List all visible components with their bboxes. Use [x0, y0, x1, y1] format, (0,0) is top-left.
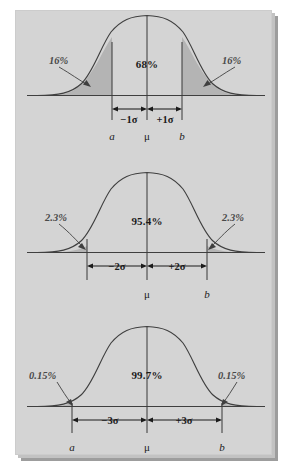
normal-distribution-figure: 68% 16% 16% −1σ +1σ a μ b	[15, 10, 272, 455]
panel-2-left-leader	[59, 224, 86, 250]
panel-3-axis-label-mu: μ	[144, 441, 150, 453]
panel-1-axis-label-b: b	[179, 130, 185, 142]
panel-3-center-percent: 99.7%	[131, 369, 162, 381]
panel-2-axis-label-mu: μ	[144, 288, 150, 300]
panel-2-right-tail-percent: 2.3%	[221, 212, 244, 223]
panel-3-right-tail-percent: 0.15%	[218, 370, 245, 381]
panel-1-sigma: 68% 16% 16% −1σ +1σ a μ b	[27, 16, 265, 143]
panel-2-span-left-label: −2σ	[109, 261, 126, 272]
panel-2-axis-label-b: b	[204, 288, 210, 300]
panel-2-right-leader	[208, 224, 235, 250]
panel-1-left-tail-percent: 16%	[49, 55, 69, 66]
panel-1-span-right-label: +1σ	[157, 114, 174, 125]
figure-plate: 68% 16% 16% −1σ +1σ a μ b	[15, 10, 272, 455]
panel-1-span-left-label: −1σ	[121, 114, 138, 125]
panel-3-axis-label-a: a	[69, 441, 75, 453]
panel-2-center-percent: 95.4%	[131, 215, 162, 227]
panel-3-axis-label-b: b	[219, 441, 225, 453]
panel-3-sigma: 99.7% 0.15% 0.15% −3σ +3σ a μ b	[27, 327, 265, 454]
panel-3-left-leader	[57, 382, 73, 406]
panel-1-axis-label-a: a	[109, 130, 115, 142]
panel-3-left-tail-percent: 0.15%	[29, 370, 56, 381]
figure-root: 68% 16% 16% −1σ +1σ a μ b	[0, 0, 297, 474]
panel-2-sigma: 95.4% 2.3% 2.3% −2σ +2σ μ b	[27, 173, 265, 301]
panel-3-right-leader	[221, 382, 237, 406]
panel-3-span-left-label: −3σ	[102, 415, 119, 426]
panel-1-center-percent: 68%	[136, 58, 159, 70]
panel-2-left-tail-percent: 2.3%	[44, 212, 67, 223]
panel-3-span-right-label: +3σ	[176, 415, 193, 426]
panel-1-axis-label-mu: μ	[144, 130, 150, 142]
panel-2-span-right-label: +2σ	[169, 261, 186, 272]
panel-1-right-tail-percent: 16%	[222, 55, 242, 66]
